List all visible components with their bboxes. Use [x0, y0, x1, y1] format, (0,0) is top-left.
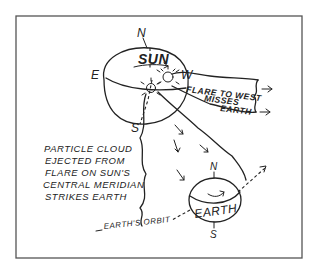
- sun-label: SUN: [138, 51, 169, 67]
- earth-label: EARTH: [193, 201, 237, 221]
- flare-west-line3: EARTH: [220, 103, 253, 117]
- earth-orbit-label: EARTH'S ORBIT: [103, 215, 171, 231]
- cloud-line5: STRIKES EARTH: [45, 191, 127, 202]
- cloud-line3: FLARE ON SUN'S: [45, 167, 131, 178]
- sun-north-label: N: [137, 26, 146, 40]
- earth: [172, 166, 266, 228]
- sun-east-label: E: [91, 68, 100, 82]
- sun-south-label: S: [131, 121, 140, 135]
- solar-flare-diagram: SUN N E W S FLARE TO WEST MISSES EARTH P…: [0, 0, 315, 274]
- earth-south-label: S: [210, 229, 217, 240]
- particle-cloud-caption: PARTICLE CLOUD EJECTED FROM FLARE ON SUN…: [43, 143, 144, 202]
- cloud-line1: PARTICLE CLOUD: [44, 143, 132, 154]
- cloud-line2: EJECTED FROM: [45, 155, 125, 166]
- sun-west-label: W: [181, 68, 194, 82]
- cloud-line4: CENTRAL MERIDIAN: [43, 179, 144, 190]
- earth-north-label: N: [210, 161, 218, 172]
- orbit-dash-left: [96, 230, 102, 231]
